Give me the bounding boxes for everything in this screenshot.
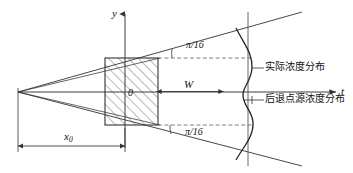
x0-subscript: 0 [69, 135, 73, 144]
angle-arc-lower [170, 125, 171, 134]
origin-label: 0 [128, 88, 133, 98]
width-dimension-label: W [184, 79, 193, 90]
plume-cone-upper [18, 12, 302, 92]
x0-dimension-label: x0 [64, 131, 73, 144]
angle-label-upper: π/16 [186, 40, 204, 50]
concentration-curve [236, 28, 253, 160]
callout-label-actual: 实际浓度分布 [265, 62, 325, 72]
plume-cone-lower [18, 92, 302, 166]
callout-leader-receding [244, 96, 264, 104]
angle-label-lower: π/16 [185, 127, 203, 137]
diagram-canvas: y t 0 W x0 π/16 π/16 实际浓度分布 后退点源浓度分布 [0, 0, 353, 173]
diagram-vector-layer [0, 0, 353, 173]
y-axis-label: y [112, 8, 117, 19]
callout-label-receding: 后退点源浓度分布 [265, 94, 345, 104]
